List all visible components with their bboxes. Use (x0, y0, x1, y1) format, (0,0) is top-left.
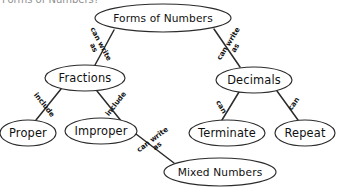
node-label-improper: Improper (74, 124, 127, 138)
edge-label-improper-to-mixed: can writeas (135, 125, 175, 161)
node-decimals[interactable]: Decimals (216, 67, 292, 93)
node-fractions[interactable]: Fractions (45, 65, 125, 91)
node-label-repeat: Repeat (285, 126, 326, 140)
edge-label-fractions-to-proper: include (32, 91, 57, 119)
edge-label-text: can (286, 95, 301, 112)
edge-label-text: can write (215, 25, 242, 61)
node-label-mixed: Mixed Numbers (178, 166, 263, 178)
concept-map-canvas: Forms of Numbers? can writeascan writeas… (0, 0, 337, 194)
node-improper[interactable]: Improper (65, 118, 137, 144)
edges-layer (36, 29, 298, 163)
node-proper[interactable]: Proper (0, 120, 56, 146)
node-mixed[interactable]: Mixed Numbers (164, 158, 276, 186)
edge-label-decimals-to-repeat: can (286, 95, 301, 112)
node-label-decimals: Decimals (227, 73, 281, 87)
node-label-proper: Proper (9, 126, 47, 140)
concept-map-svg: can writeascan writeasincludeincludecan … (0, 0, 337, 194)
node-terminate[interactable]: Terminate (189, 120, 265, 146)
edge-label-text: can write (135, 125, 170, 154)
edge-label-forms-to-decimals: can writeas (215, 25, 249, 65)
node-forms[interactable]: Forms of Numbers (95, 4, 231, 32)
node-label-terminate: Terminate (197, 126, 256, 140)
node-repeat[interactable]: Repeat (275, 120, 335, 146)
node-label-fractions: Fractions (59, 71, 112, 85)
node-label-forms: Forms of Numbers (113, 12, 213, 24)
edge-label-text: include (32, 91, 57, 119)
